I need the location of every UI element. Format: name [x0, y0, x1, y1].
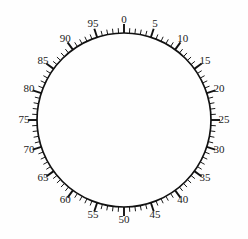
major-tick [94, 29, 97, 38]
dial-tick-label-45: 45 [149, 208, 161, 220]
dial-svg: 05101520253035404550556065707580859095 [0, 0, 248, 239]
major-tick-group [28, 24, 220, 216]
dial-tick-label-20: 20 [214, 82, 226, 94]
dial-label-group: 05101520253035404550556065707580859095 [19, 13, 231, 225]
dial-tick-label-55: 55 [88, 208, 100, 220]
dial-tick-label-40: 40 [177, 193, 189, 205]
dial-tick-label-35: 35 [199, 171, 211, 183]
dial-tick-label-90: 90 [60, 32, 72, 44]
dial-tick-label-65: 65 [38, 171, 50, 183]
dial-tick-label-0: 0 [121, 13, 127, 25]
dial-tick-label-70: 70 [23, 143, 35, 155]
minor-tick-group [32, 28, 216, 212]
dial-tick-label-60: 60 [60, 193, 72, 205]
dial-tick-label-80: 80 [23, 82, 35, 94]
dial-ring [37, 33, 211, 207]
dial-tick-label-50: 50 [119, 213, 131, 225]
dial-tick-label-10: 10 [177, 32, 189, 44]
dial-tick-label-15: 15 [199, 54, 211, 66]
dial-tick-label-95: 95 [88, 17, 100, 29]
major-tick [151, 29, 154, 38]
dial-tick-label-75: 75 [19, 113, 31, 125]
dial-tick-label-85: 85 [38, 54, 50, 66]
circular-dial-figure: 05101520253035404550556065707580859095 [0, 0, 248, 239]
dial-tick-label-25: 25 [219, 113, 231, 125]
dial-tick-label-5: 5 [152, 17, 158, 29]
dial-tick-label-30: 30 [214, 143, 226, 155]
